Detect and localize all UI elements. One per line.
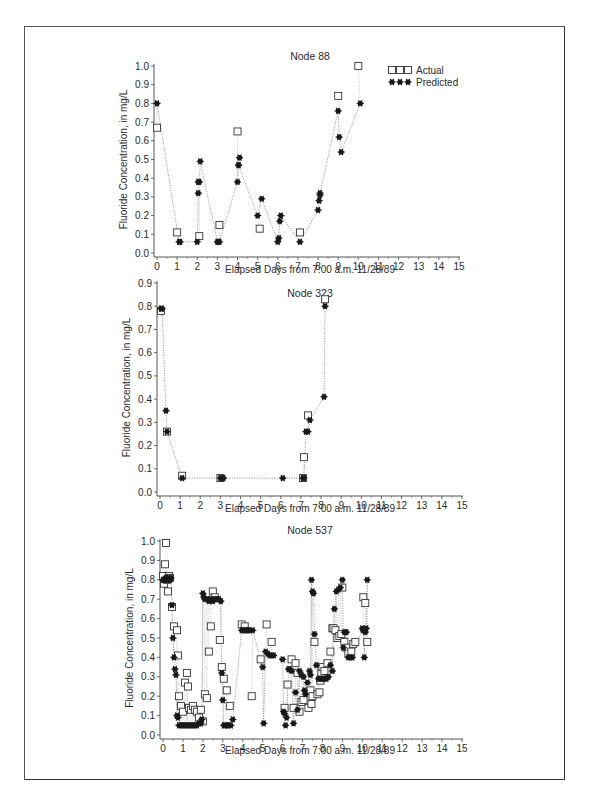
predicted-marker-icon (339, 577, 346, 583)
actual-marker-icon (268, 638, 275, 645)
y-tick-label: 0.7 (141, 594, 155, 605)
axes: 0.00.10.20.30.40.50.60.70.80.91.00123456… (141, 536, 468, 755)
actual-marker-icon (308, 700, 315, 707)
chart-node-537: Node 5370.00.10.20.30.40.50.60.70.80.91.… (0, 0, 590, 803)
predicted-marker-icon (259, 664, 266, 670)
actual-marker-icon (226, 702, 233, 709)
residual-line (220, 601, 221, 640)
actual-marker-icon (220, 675, 227, 682)
actual-marker-icon (218, 664, 225, 671)
predicted-marker-icon (361, 654, 368, 660)
predicted-marker-icon (172, 672, 179, 678)
actual-marker-icon (173, 627, 180, 634)
y-tick-label: 0.4 (141, 652, 155, 663)
y-axis-label: Fluoride Concentration, in mg/L (124, 568, 135, 708)
y-tick-label: 0.2 (141, 691, 155, 702)
y-tick-label: 0.3 (141, 671, 155, 682)
predicted-marker-icon (290, 720, 297, 726)
actual-marker-icon (197, 706, 204, 713)
predicted-marker-icon (311, 631, 318, 637)
predicted-marker-icon (219, 697, 226, 703)
actual-marker-icon (257, 656, 264, 663)
actual-marker-icon (216, 636, 223, 643)
x-tick-label: 2 (200, 743, 206, 754)
predicted-marker-icon (364, 577, 371, 583)
actual-marker-icon (352, 638, 359, 645)
y-tick-label: 1.0 (141, 536, 155, 547)
predicted-marker-icon (171, 666, 178, 672)
actual-marker-icon (162, 539, 169, 546)
actual-marker-icon (362, 600, 369, 607)
actual-marker-icon (207, 623, 214, 630)
predicted-marker-icon (329, 668, 336, 674)
predicted-marker-icon (282, 722, 289, 728)
actual-series (160, 539, 371, 724)
residual-line (266, 624, 267, 651)
predicted-marker-icon (292, 689, 299, 695)
actual-marker-icon (284, 681, 291, 688)
x-tick-label: 15 (456, 743, 468, 754)
y-tick-label: 0.8 (141, 574, 155, 585)
actual-marker-icon (248, 693, 255, 700)
x-tick-label: 13 (417, 743, 429, 754)
actual-marker-icon (184, 683, 191, 690)
y-tick-label: 0.9 (141, 555, 155, 566)
x-axis-label: Elapsed Days from 7:00 a.m. 11/28/89 (225, 745, 395, 756)
actual-marker-icon (183, 669, 190, 676)
actual-marker-icon (292, 660, 299, 667)
predicted-marker-icon (169, 635, 176, 641)
predicted-marker-icon (229, 716, 236, 722)
actual-marker-icon (364, 638, 371, 645)
actual-marker-icon (311, 638, 318, 645)
x-tick-label: 14 (436, 743, 448, 754)
actual-marker-icon (164, 588, 171, 595)
y-tick-label: 0.0 (141, 730, 155, 741)
y-tick-label: 0.5 (141, 633, 155, 644)
actual-marker-icon (175, 693, 182, 700)
x-tick-label: 1 (180, 743, 186, 754)
actual-marker-icon (223, 687, 230, 694)
y-tick-label: 0.6 (141, 613, 155, 624)
residual-line (340, 588, 341, 635)
actual-marker-icon (327, 648, 334, 655)
predicted-marker-icon (308, 577, 315, 583)
y-tick-label: 0.1 (141, 710, 155, 721)
actual-marker-icon (321, 667, 328, 674)
residual-line (252, 630, 253, 696)
actual-marker-icon (263, 621, 270, 628)
predicted-marker-icon (331, 606, 338, 612)
predicted-marker-icon (260, 720, 267, 726)
x-tick-label: 0 (160, 743, 166, 754)
plot-area (159, 539, 370, 728)
predicted-marker-icon (304, 680, 311, 686)
figure-caption-cutoff (24, 790, 565, 802)
actual-marker-icon (348, 648, 355, 655)
actual-marker-icon (161, 561, 168, 568)
chart-title: Node 537 (287, 524, 333, 536)
actual-marker-icon (203, 695, 210, 702)
actual-marker-icon (205, 648, 212, 655)
actual-marker-icon (316, 689, 323, 696)
actual-marker-icon (300, 697, 307, 704)
x-tick-label: 12 (397, 743, 409, 754)
predicted-marker-icon (279, 656, 286, 662)
